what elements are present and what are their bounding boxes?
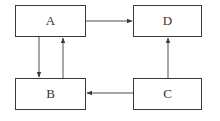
node-a-label: A — [46, 13, 55, 29]
node-d: D — [133, 5, 202, 37]
node-c-label: C — [163, 86, 172, 102]
node-d-label: D — [163, 13, 172, 29]
node-c: C — [133, 78, 202, 110]
node-b: B — [15, 78, 86, 110]
node-b-label: B — [46, 86, 55, 102]
node-a: A — [15, 5, 86, 37]
